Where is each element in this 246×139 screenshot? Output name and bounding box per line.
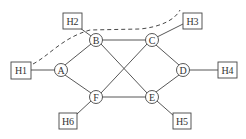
host-label: H4 [221, 65, 233, 76]
router-b: B [90, 34, 103, 47]
link-a-b [65, 44, 91, 65]
router-label: C [149, 35, 156, 46]
link-c-d [156, 45, 179, 65]
link-f-h6 [77, 101, 91, 114]
link-a-f [65, 75, 91, 93]
host-h2: H2 [63, 13, 82, 29]
link-e-h5 [157, 101, 174, 116]
host-label: H1 [15, 65, 27, 76]
router-e: E [146, 91, 159, 104]
host-label: H2 [66, 16, 78, 27]
router-c: C [146, 34, 159, 47]
link-h3-c [157, 24, 183, 37]
host-label: H5 [176, 116, 188, 127]
router-label: E [149, 92, 155, 103]
host-h1: H1 [11, 62, 31, 79]
host-h4: H4 [218, 62, 237, 78]
host-h5: H5 [173, 113, 191, 129]
router-label: B [93, 35, 100, 46]
router-label: D [179, 65, 186, 76]
host-label: H3 [186, 16, 198, 27]
router-label: A [57, 65, 65, 76]
host-h6: H6 [59, 113, 77, 129]
router-label: F [93, 92, 99, 103]
host-label: H6 [62, 116, 74, 127]
host-h3: H3 [183, 13, 202, 29]
network-diagram: H1 H2 H3 H4 H5 H6 A B C D E F [0, 0, 246, 139]
link-d-e [156, 75, 179, 92]
router-f: F [90, 91, 103, 104]
router-d: D [177, 64, 190, 77]
router-a: A [55, 64, 68, 77]
